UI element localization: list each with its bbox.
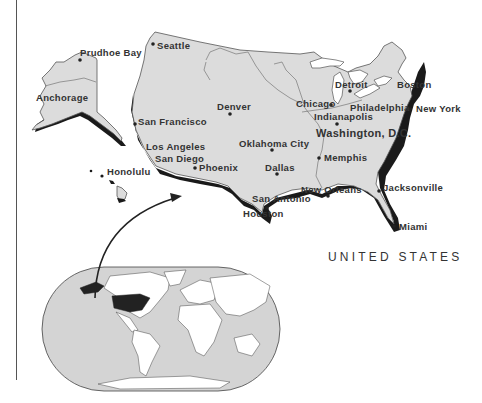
world-locator-inset: [42, 267, 280, 391]
city-label-honolulu: Honolulu: [107, 166, 151, 177]
city-label-denver: Denver: [217, 101, 251, 112]
city-label-new-orleans: New Orleans: [301, 184, 362, 195]
city-label-prudhoe-bay: Prudhoe Bay: [80, 47, 142, 58]
city-label-anchorage: Anchorage: [36, 92, 88, 103]
city-label-miami: Miami: [399, 221, 427, 232]
map-title: UNITED STATES: [328, 250, 463, 264]
city-label-jacksonville: Jacksonville: [383, 182, 443, 193]
city-label-san-diego: San Diego: [155, 153, 204, 164]
us-map: [0, 0, 482, 403]
city-label-dallas: Dallas: [265, 162, 295, 173]
city-label-los-angeles: Los Angeles: [146, 141, 205, 152]
city-label-phoenix: Phoenix: [199, 162, 238, 173]
city-label-chicago: Chicago: [296, 98, 336, 109]
city-label-memphis: Memphis: [324, 152, 367, 163]
city-label-philadelphia: Philadelphia: [350, 102, 410, 113]
city-label-detroit: Detroit: [335, 79, 368, 90]
city-label-boston: Boston: [397, 79, 432, 90]
city-label-houston: Houston: [243, 208, 284, 219]
city-label-new-york: New York: [416, 103, 461, 114]
city-label-seattle: Seattle: [157, 40, 190, 51]
city-label-san-francisco: San Francisco: [138, 116, 207, 127]
city-label-oklahoma-city: Oklahoma City: [239, 138, 309, 149]
city-label-washington-dc: Washington, D.C.: [316, 127, 411, 139]
